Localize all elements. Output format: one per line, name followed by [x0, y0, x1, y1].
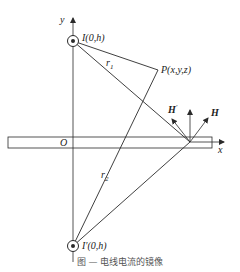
conducting-plane [8, 137, 212, 148]
source-label: I(0,h) [82, 33, 105, 43]
h-vector [190, 118, 208, 142]
source-to-plane-line [73, 41, 190, 142]
r2-label: r2 [101, 170, 108, 183]
image-current-icon [68, 241, 79, 252]
image-source-label: I′(0,h) [82, 241, 107, 251]
image-to-plane-line [73, 142, 190, 246]
h-prime-label: H′ [168, 104, 177, 115]
h-prime-vector [172, 119, 190, 142]
figure-caption: 图 — 电线电流的镜像 [0, 258, 240, 267]
r1-line [73, 41, 158, 70]
source-current-icon [68, 36, 79, 47]
y-axis-label: y [60, 15, 64, 25]
x-axis-label: x [218, 145, 222, 155]
origin-label: O [60, 138, 67, 148]
r2-line [73, 70, 158, 246]
h-label: H [211, 108, 219, 118]
point-p-label: P(x,y,z) [161, 65, 191, 75]
image-current-diagram [0, 0, 240, 272]
r1-label: r1 [106, 58, 113, 71]
